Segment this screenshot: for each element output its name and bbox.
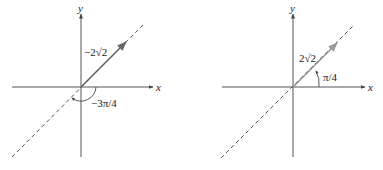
magnitude-label: −2√2: [84, 46, 107, 58]
angle-label: π/4: [323, 71, 338, 83]
left-diagram: x y −2√2 −3π/4: [12, 2, 161, 157]
angle-arc: [316, 71, 319, 87]
magnitude-label: 2√2: [299, 52, 316, 64]
y-axis-label: y: [77, 2, 83, 14]
angle-label: −3π/4: [91, 97, 117, 109]
x-axis-label: x: [155, 81, 161, 93]
y-axis-label: y: [289, 2, 295, 14]
right-diagram: x y 2√2 π/4: [221, 2, 373, 158]
x-axis-label: x: [367, 81, 373, 93]
